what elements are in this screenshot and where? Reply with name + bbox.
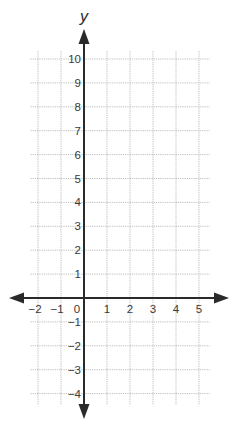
coordinate-plane: y −2−1012345 10987654321−1−2−3−4 [0, 0, 236, 426]
y-tick-label: −1 [68, 316, 81, 328]
x-tick-label: 2 [127, 303, 133, 315]
x-axis-right-arrow-icon [214, 293, 229, 304]
x-tick-label: 0 [74, 303, 80, 315]
x-tick-label: 4 [173, 303, 180, 315]
y-tick-label: 2 [75, 244, 81, 256]
x-tick-label: −2 [28, 303, 41, 315]
y-tick-label: −4 [68, 388, 82, 400]
x-tick-label: −1 [50, 303, 63, 315]
y-tick-label: 5 [75, 173, 81, 185]
y-tick-label: 7 [75, 125, 81, 137]
y-tick-label: 4 [75, 196, 82, 208]
y-axis-up-arrow-icon [79, 29, 90, 44]
y-tick-label: 1 [75, 268, 81, 280]
axes: y [9, 8, 229, 419]
y-tick-label: 8 [75, 101, 81, 113]
y-tick-label: 9 [75, 77, 81, 89]
y-tick-label: 3 [75, 220, 81, 232]
y-axis-title: y [79, 8, 89, 25]
x-tick-label: 5 [196, 303, 202, 315]
y-axis-down-arrow-icon [79, 404, 90, 419]
y-tick-label: 6 [75, 149, 81, 161]
y-tick-label: −3 [68, 364, 81, 376]
x-axis-left-arrow-icon [9, 293, 24, 304]
grid [31, 51, 210, 405]
x-tick-labels: −2−1012345 [28, 303, 202, 315]
x-tick-label: 3 [150, 303, 156, 315]
y-tick-label: −2 [68, 340, 81, 352]
y-tick-labels: 10987654321−1−2−3−4 [68, 53, 82, 400]
x-tick-label: 1 [104, 303, 110, 315]
y-tick-label: 10 [68, 53, 81, 65]
